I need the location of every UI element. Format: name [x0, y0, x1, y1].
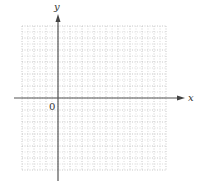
x-axis-arrow-icon: [177, 96, 185, 101]
x-axis-label: x: [188, 92, 194, 103]
y-axis-label: y: [53, 1, 60, 12]
y-axis-arrow-icon: [56, 14, 61, 22]
origin-label: 0: [49, 101, 55, 112]
coordinate-plane: x y 0: [0, 0, 199, 190]
